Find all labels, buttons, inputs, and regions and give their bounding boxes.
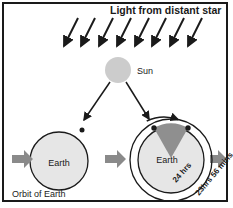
sidereal-day-diagram: Light from distant star Sun Earth Earth …	[0, 0, 233, 208]
observer-dot-left	[80, 128, 85, 133]
sunlight-arrow-right	[126, 82, 149, 119]
star-light-rays	[64, 18, 202, 46]
sun-icon	[105, 57, 131, 83]
orbit-label: Orbit of Earth	[12, 189, 66, 199]
orbit-arrow-2	[105, 150, 126, 168]
sunlight-arrow-left	[84, 82, 110, 120]
title-label: Light from distant star	[110, 4, 221, 16]
observer-dot-end	[185, 125, 190, 130]
sun-label: Sun	[137, 66, 153, 76]
observer-dot-start	[151, 125, 156, 130]
earth-left-label: Earth	[48, 158, 70, 168]
earth-right-label: Earth	[156, 155, 178, 165]
